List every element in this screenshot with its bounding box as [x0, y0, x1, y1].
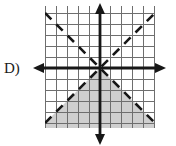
coordinate-graph [0, 0, 176, 146]
y-axis-down-arrow [95, 134, 105, 145]
coordinate-plane-svg [0, 0, 176, 146]
x-axis-left-arrow [33, 63, 44, 73]
answer-choice-panel: D) [0, 0, 176, 146]
x-axis-right-arrow [155, 63, 166, 73]
